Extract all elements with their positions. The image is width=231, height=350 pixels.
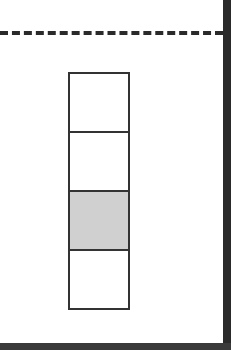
- frame-border-right: [223, 0, 231, 350]
- frame-border-bottom: [0, 343, 231, 350]
- cell-stack: [68, 72, 130, 310]
- stack-cell-1: [68, 72, 130, 133]
- stack-cell-2: [68, 133, 130, 192]
- stack-cell-3-filled: [68, 192, 130, 251]
- stack-cell-4: [68, 251, 130, 310]
- dashed-reference-line: [0, 31, 223, 35]
